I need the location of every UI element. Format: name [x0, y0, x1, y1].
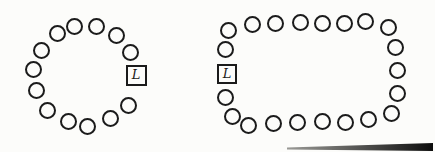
- network-node: [389, 85, 406, 102]
- network-node: [360, 111, 377, 128]
- network-node: [292, 14, 309, 31]
- network-node: [217, 89, 234, 106]
- network-node: [244, 16, 261, 33]
- network-node: [224, 108, 241, 125]
- network-node: [220, 22, 237, 39]
- network-node: [336, 15, 353, 32]
- network-node: [240, 117, 257, 134]
- network-node: [314, 15, 331, 32]
- network-node: [289, 114, 306, 131]
- figure-canvas: L L: [0, 0, 435, 152]
- network-node: [265, 115, 282, 132]
- network-node: [337, 114, 354, 131]
- leader-node: L: [217, 64, 237, 84]
- network-node: [383, 105, 400, 122]
- network-node: [389, 62, 406, 79]
- network-node: [314, 113, 331, 130]
- network-node: [380, 19, 397, 36]
- network-node: [357, 13, 374, 30]
- rounded-rectangle-ring-network-diagram: L: [0, 0, 435, 152]
- leader-label: L: [223, 67, 232, 80]
- network-node: [267, 15, 284, 32]
- network-node: [387, 39, 404, 56]
- network-node: [217, 41, 234, 58]
